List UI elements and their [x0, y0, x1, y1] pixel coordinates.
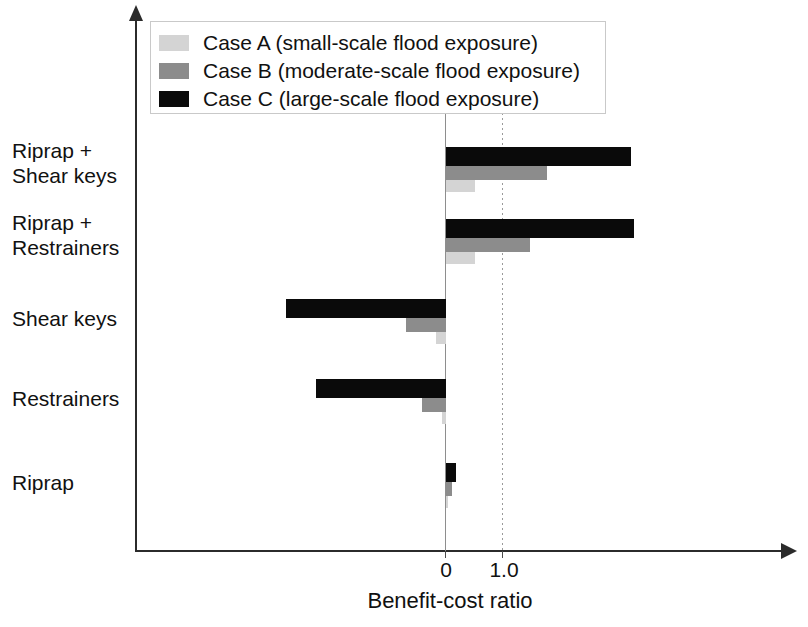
category-label-line: Riprap [12, 470, 132, 495]
category-label-line: Restrainers [12, 386, 132, 411]
legend-label: Case A (small-scale flood exposure) [203, 31, 538, 55]
bar [422, 398, 446, 412]
legend-item: Case A (small-scale flood exposure) [159, 29, 605, 57]
chart-legend: Case A (small-scale flood exposure)Case … [150, 21, 606, 114]
x-tick-label-0: 0 [426, 557, 466, 583]
category-label-line: Restrainers [12, 235, 132, 260]
legend-swatch-icon [159, 35, 189, 51]
bar [406, 318, 446, 332]
bar [446, 463, 456, 482]
category-label: Restrainers [12, 386, 132, 411]
category-label-line: Shear keys [12, 306, 132, 331]
category-label-line: Riprap + [12, 138, 132, 163]
category-label: Riprap +Restrainers [12, 210, 132, 260]
x-axis-title: Benefit-cost ratio [300, 588, 600, 614]
legend-item: Case C (large-scale flood exposure) [159, 85, 605, 113]
category-label-line: Shear keys [12, 163, 132, 188]
y-axis-line [135, 16, 137, 552]
bar [442, 412, 446, 424]
y-axis-arrow-icon [129, 5, 143, 21]
bar [446, 219, 634, 238]
bar [446, 166, 547, 180]
legend-label: Case C (large-scale flood exposure) [203, 87, 539, 111]
legend-label: Case B (moderate-scale flood exposure) [203, 59, 580, 83]
x-axis-arrow-icon [781, 543, 797, 559]
benefit-cost-ratio-chart: 0 1.0 Benefit-cost ratio Riprap +Shear k… [0, 0, 808, 627]
bar [446, 482, 452, 496]
bar [286, 299, 446, 318]
x-axis-line [135, 550, 790, 552]
category-label-line: Riprap + [12, 210, 132, 235]
category-label: Riprap +Shear keys [12, 138, 132, 188]
legend-swatch-icon [159, 91, 189, 107]
legend-item: Case B (moderate-scale flood exposure) [159, 57, 605, 85]
x-tick-label-1: 1.0 [477, 557, 531, 583]
legend-swatch-icon [159, 63, 189, 79]
bar [446, 147, 631, 166]
bar [446, 180, 475, 192]
category-label: Riprap [12, 470, 132, 495]
category-label: Shear keys [12, 306, 132, 331]
bar [436, 332, 446, 344]
bar [446, 496, 448, 508]
bar [446, 252, 475, 264]
bar [446, 238, 530, 252]
bar [316, 379, 446, 398]
